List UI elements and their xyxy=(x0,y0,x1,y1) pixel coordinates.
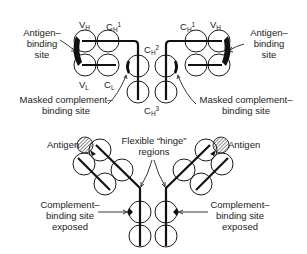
exposed-site-label-right: Complement– binding site exposed xyxy=(208,199,272,232)
label-ch1-right: CH1 xyxy=(180,19,195,35)
antigen-binding-label-right: Antigen– binding site xyxy=(240,27,298,60)
hinge-label: Flexible “hinge” regions xyxy=(112,135,196,157)
heavy-chain-right-top xyxy=(166,41,222,100)
masked-site-label-left: Masked complement– binding site xyxy=(12,94,120,116)
antigen-label-right: Antigen xyxy=(228,139,260,150)
top-fc xyxy=(127,55,177,103)
label-ch3: CH3 xyxy=(144,103,159,119)
top-right-fab xyxy=(185,30,230,76)
label-vh-right: VH xyxy=(210,19,221,33)
label-cl-left: CL xyxy=(104,79,115,93)
exposed-site-label-left: Complement– binding site exposed xyxy=(38,199,102,232)
label-ch2: CH2 xyxy=(144,42,159,58)
antigen-binding-label-left: Antigen– binding site xyxy=(14,27,70,60)
masked-complement-site-left-icon xyxy=(126,60,130,74)
label-vh-left: VH xyxy=(79,19,90,33)
bottom-fc xyxy=(129,201,177,247)
masked-complement-site-right-icon xyxy=(174,60,178,74)
label-ch1-left: CH1 xyxy=(106,19,121,35)
top-left-fab xyxy=(74,30,119,76)
label-vl-left: VL xyxy=(79,79,89,93)
masked-site-label-right: Masked complement– binding site xyxy=(192,94,300,116)
antigen-label-left: Antigen xyxy=(47,139,79,150)
